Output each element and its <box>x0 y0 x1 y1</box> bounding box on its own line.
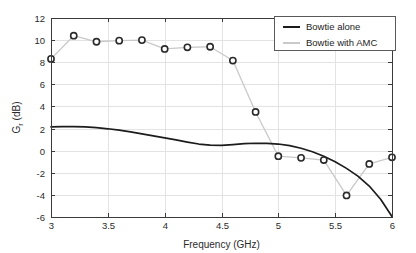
data-point-marker <box>207 44 213 50</box>
y-tick-label: -6 <box>37 212 45 223</box>
data-point-marker <box>139 37 145 43</box>
data-point-marker <box>116 38 122 44</box>
y-tick-label: -2 <box>37 168 45 179</box>
legend-label: Bowtie alone <box>306 21 360 32</box>
series-line-bowtie-alone <box>51 127 392 217</box>
data-point-marker <box>298 155 304 161</box>
y-axis-title: Gr (dB) <box>11 102 25 134</box>
data-point-marker <box>321 157 327 163</box>
data-point-marker <box>253 109 259 115</box>
y-tick-label: 4 <box>40 101 45 112</box>
data-point-marker <box>275 153 281 159</box>
y-tick-label: 8 <box>40 57 45 68</box>
y-tick-label: -4 <box>37 190 45 201</box>
data-point-marker <box>366 161 372 167</box>
x-tick-label: 3.5 <box>102 220 115 231</box>
gain-vs-frequency-chart: 33.544.555.56-6-4-2024681012Frequency (G… <box>0 0 416 253</box>
data-point-marker <box>230 57 236 63</box>
chart-figure: 33.544.555.56-6-4-2024681012Frequency (G… <box>0 0 416 253</box>
y-tick-label: 2 <box>40 124 45 135</box>
y-tick-label: 6 <box>40 79 45 90</box>
x-tick-label: 6 <box>390 220 395 231</box>
x-axis-title: Frequency (GHz) <box>183 239 260 250</box>
data-point-marker <box>162 46 168 52</box>
y-tick-label: 12 <box>34 13 45 24</box>
legend: Bowtie aloneBowtie with AMC <box>275 17 396 51</box>
y-tick-label: 10 <box>34 35 45 46</box>
data-point-marker <box>343 192 349 198</box>
legend-label: Bowtie with AMC <box>306 37 377 48</box>
x-tick-label: 3 <box>49 220 54 231</box>
x-tick-label: 5 <box>276 220 281 231</box>
data-point-marker <box>184 44 190 50</box>
x-tick-label: 5.5 <box>329 220 342 231</box>
x-tick-label: 4 <box>163 220 168 231</box>
x-tick-label: 4.5 <box>216 220 229 231</box>
data-point-marker <box>93 39 99 45</box>
series-line-bowtie-with-amc <box>51 36 392 196</box>
y-tick-label: 0 <box>40 146 45 157</box>
data-point-marker <box>71 33 77 39</box>
